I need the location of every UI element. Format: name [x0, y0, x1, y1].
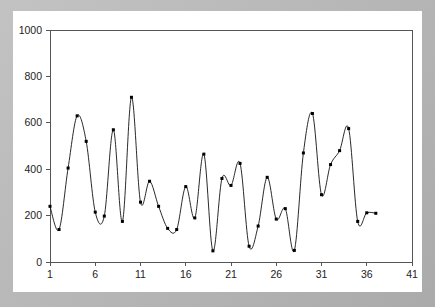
data-point-marker — [248, 245, 251, 248]
data-point-marker — [329, 163, 332, 166]
data-point-marker — [49, 205, 52, 208]
data-point-marker — [356, 220, 359, 223]
data-point-marker — [266, 176, 269, 179]
chart-axes — [50, 30, 412, 262]
x-tick-label: 41 — [406, 268, 418, 280]
data-point-marker — [184, 185, 187, 188]
data-point-marker — [166, 227, 169, 230]
chart-series — [49, 96, 378, 253]
x-tick-label: 6 — [92, 268, 98, 280]
data-point-marker — [239, 162, 242, 165]
data-point-marker — [202, 153, 205, 156]
data-point-marker — [193, 216, 196, 219]
chart-ticks — [46, 30, 412, 266]
data-point-marker — [103, 215, 106, 218]
data-point-marker — [130, 96, 133, 99]
x-tick-label: 16 — [180, 268, 192, 280]
x-tick-label: 21 — [225, 268, 237, 280]
data-point-marker — [365, 211, 368, 214]
x-tick-label: 26 — [270, 268, 282, 280]
y-tick-label: 600 — [24, 116, 42, 128]
data-point-marker — [94, 211, 97, 214]
y-tick-label: 800 — [24, 70, 42, 82]
data-point-marker — [284, 207, 287, 210]
data-point-marker — [211, 249, 214, 252]
y-tick-label: 400 — [24, 163, 42, 175]
data-point-marker — [311, 112, 314, 115]
data-point-marker — [257, 225, 260, 228]
data-point-marker — [338, 149, 341, 152]
data-point-marker — [302, 151, 305, 154]
data-point-marker — [139, 201, 142, 204]
data-point-marker — [121, 220, 124, 223]
data-point-marker — [230, 184, 233, 187]
x-tick-label: 1 — [47, 268, 53, 280]
chart-tick-labels: 020040060080010001611162126313641 — [19, 24, 418, 280]
data-point-marker — [220, 177, 223, 180]
line-chart: 020040060080010001611162126313641 — [0, 0, 435, 307]
data-point-marker — [175, 228, 178, 231]
data-point-marker — [112, 128, 115, 131]
y-tick-label: 0 — [36, 256, 42, 268]
x-tick-label: 11 — [135, 268, 146, 280]
x-tick-label: 31 — [316, 268, 328, 280]
data-point-marker — [58, 228, 61, 231]
data-point-marker — [76, 114, 79, 117]
data-point-marker — [85, 140, 88, 143]
series-line — [50, 97, 376, 251]
y-tick-label: 200 — [24, 209, 42, 221]
data-point-marker — [157, 205, 160, 208]
data-point-marker — [293, 249, 296, 252]
y-tick-label: 1000 — [19, 24, 43, 36]
data-point-marker — [148, 180, 151, 183]
x-tick-label: 36 — [361, 268, 373, 280]
data-point-marker — [374, 212, 377, 215]
data-point-marker — [67, 167, 70, 170]
data-point-marker — [347, 127, 350, 130]
data-point-marker — [320, 193, 323, 196]
data-point-marker — [275, 218, 278, 221]
